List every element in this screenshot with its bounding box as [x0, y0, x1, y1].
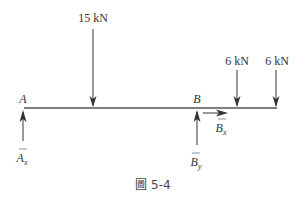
- reaction-label: By: [191, 155, 202, 171]
- load-6kN-2: 6 kN: [265, 54, 289, 107]
- load-label: 6 kN: [225, 54, 249, 68]
- load-15kN: 15 kN: [78, 11, 108, 107]
- reaction-ax: Ax: [16, 110, 28, 167]
- reaction-by: By: [191, 110, 202, 171]
- reaction-label: Ax: [16, 151, 28, 167]
- point-a-label: A: [18, 92, 27, 106]
- free-body-diagram: 15 kN 6 kN 6 kN A B Ax By Bx 圖 5-4: [0, 0, 307, 207]
- reaction-label: Bx: [216, 121, 227, 137]
- point-b-label: B: [193, 92, 201, 106]
- load-label: 6 kN: [265, 54, 289, 68]
- load-label: 15 kN: [78, 11, 108, 25]
- figure-caption: 圖 5-4: [135, 178, 170, 192]
- reaction-bx: Bx: [203, 110, 228, 138]
- load-6kN-1: 6 kN: [225, 54, 249, 107]
